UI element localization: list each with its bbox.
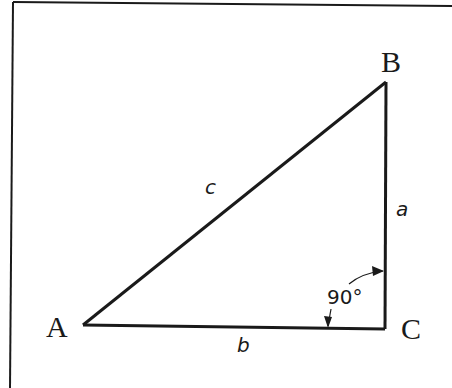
frame-left-border [10, 2, 13, 388]
side-label-c: c [205, 177, 216, 197]
side-label-b: b [237, 335, 250, 355]
arc-arrow-down-icon [324, 316, 332, 328]
frame-top-border [13, 2, 452, 6]
vertex-label-b: B [381, 47, 401, 77]
arc-arrow-right-icon [372, 266, 384, 276]
side-a [385, 82, 386, 329]
angle-label-90: 90° [327, 287, 362, 307]
vertex-label-c: C [401, 314, 421, 344]
side-b [83, 325, 385, 329]
vertex-label-a: A [46, 312, 68, 342]
side-label-a: a [396, 199, 408, 219]
